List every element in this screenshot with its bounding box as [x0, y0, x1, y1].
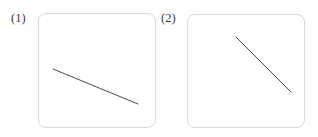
panel-2-line-segment: [236, 37, 291, 92]
panel-2-label: (2): [161, 12, 176, 25]
panel-1-plot-area: [38, 13, 156, 128]
panel-1-line-segment: [53, 69, 138, 104]
panel-2-plot-area: [187, 14, 305, 128]
panel-1-line-svg: [38, 13, 156, 128]
panel-1-label: (1): [11, 12, 26, 25]
figure-canvas: (1) (2): [0, 0, 318, 137]
panel-2-line-svg: [187, 14, 305, 128]
